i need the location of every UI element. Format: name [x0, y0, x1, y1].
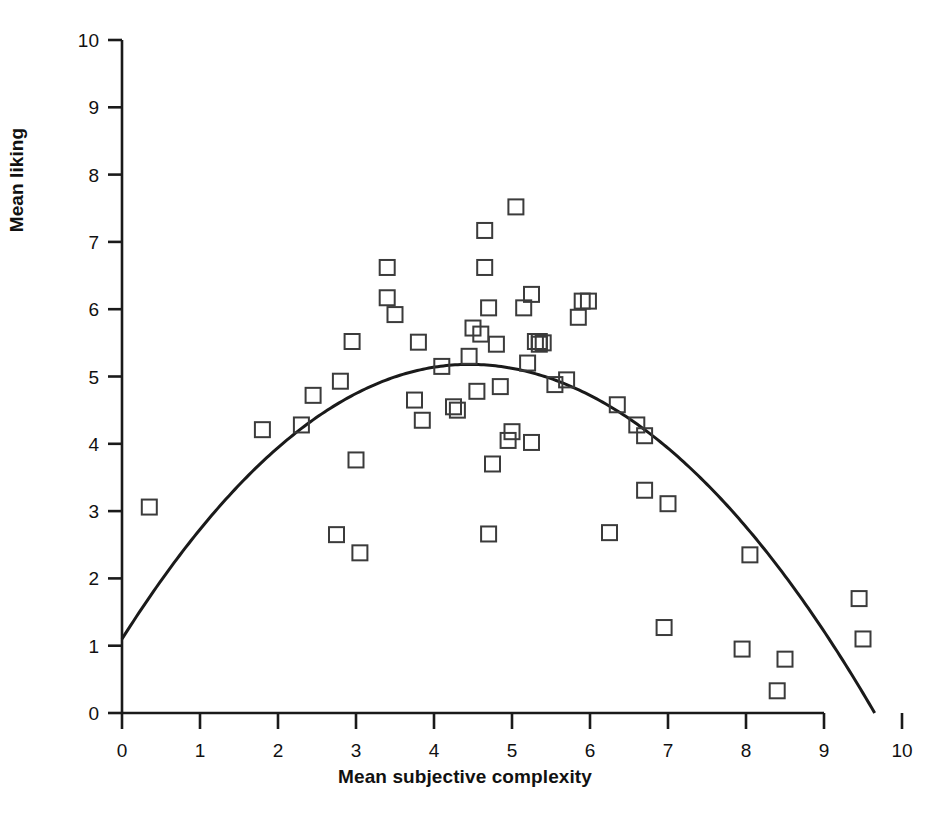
data-point-marker	[329, 527, 344, 542]
data-point-marker	[742, 547, 757, 562]
x-tick-label: 3	[351, 740, 362, 761]
data-point-marker	[142, 500, 157, 515]
data-point-marker	[333, 374, 348, 389]
x-tick-label: 6	[585, 740, 596, 761]
data-point-marker	[508, 199, 523, 214]
data-point-marker	[637, 483, 652, 498]
x-tick-label: 0	[117, 740, 128, 761]
data-point-marker	[462, 349, 477, 364]
data-point-marker	[657, 620, 672, 635]
data-point-marker	[489, 337, 504, 352]
x-tick-label: 8	[741, 740, 752, 761]
data-point-marker	[485, 456, 500, 471]
data-point-marker	[481, 300, 496, 315]
figure-caption	[62, 806, 941, 828]
data-point-marker	[524, 435, 539, 450]
data-point-marker	[380, 260, 395, 275]
data-point-marker	[415, 413, 430, 428]
data-point-marker	[477, 260, 492, 275]
data-markers	[142, 199, 871, 698]
data-point-marker	[469, 384, 484, 399]
data-point-marker	[255, 422, 270, 437]
y-tick-label: 9	[88, 97, 99, 118]
y-tick-label: 2	[88, 568, 99, 589]
data-point-marker	[602, 525, 617, 540]
x-tick-label: 2	[273, 740, 284, 761]
data-point-marker	[520, 356, 535, 371]
data-point-marker	[661, 496, 676, 511]
figure-container: Mean liking Mean subjective complexity 0…	[0, 0, 941, 828]
y-tick-label: 8	[88, 165, 99, 186]
axis-lines	[122, 40, 824, 713]
y-tick-label: 6	[88, 299, 99, 320]
data-point-marker	[411, 335, 426, 350]
y-tick-label: 5	[88, 367, 99, 388]
data-point-marker	[481, 526, 496, 541]
data-point-marker	[380, 290, 395, 305]
data-point-marker	[735, 642, 750, 657]
x-axis-ticks: 012345678910	[117, 713, 913, 761]
data-point-marker	[477, 223, 492, 238]
data-point-marker	[856, 631, 871, 646]
data-point-marker	[581, 294, 596, 309]
x-tick-label: 7	[663, 740, 674, 761]
data-point-marker	[493, 379, 508, 394]
x-tick-label: 4	[429, 740, 440, 761]
data-point-marker	[770, 683, 785, 698]
data-point-marker	[778, 652, 793, 667]
data-point-marker	[388, 307, 403, 322]
x-tick-label: 5	[507, 740, 518, 761]
data-point-marker	[446, 399, 461, 414]
y-tick-label: 10	[78, 30, 99, 51]
scatter-plot: 012345678910 012345678910	[0, 0, 941, 828]
y-tick-label: 1	[88, 636, 99, 657]
data-point-marker	[306, 388, 321, 403]
data-point-marker	[345, 334, 360, 349]
data-point-marker	[505, 424, 520, 439]
y-tick-label: 4	[88, 434, 99, 455]
y-tick-label: 3	[88, 501, 99, 522]
data-point-marker	[407, 393, 422, 408]
data-point-marker	[450, 403, 465, 418]
y-tick-label: 7	[88, 232, 99, 253]
x-tick-label: 10	[891, 740, 912, 761]
y-axis-ticks: 012345678910	[78, 30, 122, 724]
fit-curve	[122, 364, 875, 713]
data-point-marker	[852, 591, 867, 606]
x-tick-label: 9	[819, 740, 830, 761]
data-point-marker	[349, 452, 364, 467]
data-point-marker	[571, 310, 586, 325]
x-tick-label: 1	[195, 740, 206, 761]
data-point-marker	[575, 294, 590, 309]
data-point-marker	[352, 545, 367, 560]
data-point-marker	[501, 433, 516, 448]
y-tick-label: 0	[88, 703, 99, 724]
